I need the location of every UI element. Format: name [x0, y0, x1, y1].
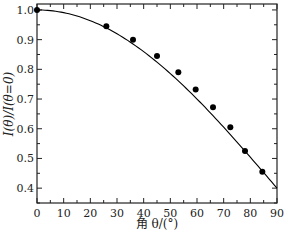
- x-tick-label: 10: [57, 207, 71, 220]
- data-point: [130, 37, 136, 43]
- x-axis-label: 角 θ/(°): [136, 217, 178, 231]
- y-tick-label: 0.8: [17, 63, 35, 76]
- x-tick-label: 90: [270, 207, 284, 220]
- x-tick-label: 30: [110, 207, 124, 220]
- plot-border: [37, 4, 277, 203]
- theory-curve: [37, 10, 277, 188]
- chart-canvas: 0102030405060708090 0.40.50.60.70.80.91.…: [0, 0, 284, 235]
- y-axis-label: I(θ)/I(θ=0): [2, 71, 16, 137]
- x-tick-label: 80: [243, 207, 257, 220]
- data-point: [227, 124, 233, 130]
- x-tick-label: 0: [34, 207, 41, 220]
- y-tick-label: 0.9: [17, 34, 35, 47]
- y-tick-label: 0.6: [17, 123, 35, 136]
- y-tick-label: 0.7: [17, 93, 35, 106]
- y-axis-ticks: 0.40.50.60.70.80.91.0: [17, 4, 278, 203]
- data-point: [193, 87, 199, 93]
- x-tick-label: 70: [217, 207, 231, 220]
- y-tick-label: 0.5: [17, 152, 35, 165]
- x-axis-ticks: 0102030405060708090: [34, 4, 285, 220]
- plot-frame: [37, 4, 277, 203]
- x-tick-label: 20: [83, 207, 97, 220]
- x-tick-label: 60: [190, 207, 204, 220]
- data-point: [154, 53, 160, 59]
- y-tick-label: 1.0: [17, 4, 35, 17]
- plot-series: [34, 7, 277, 188]
- data-point: [210, 104, 216, 110]
- data-point: [175, 69, 181, 75]
- y-tick-label: 0.4: [17, 182, 35, 195]
